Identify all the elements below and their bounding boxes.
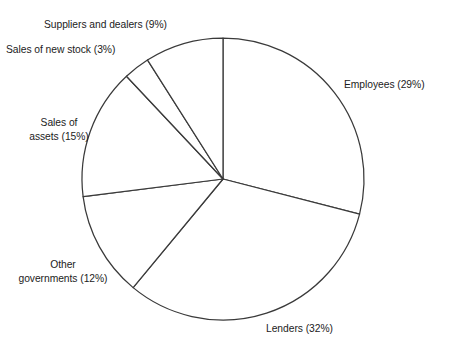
slice-label-lenders: Lenders (32%) <box>266 322 333 336</box>
slice-label-sales-of-new-stock: Sales of new stock (3%) <box>6 43 115 57</box>
slice-label-suppliers-and-dealers: Suppliers and dealers (9%) <box>44 18 167 32</box>
pie-slices-group <box>82 38 364 320</box>
pie-chart-figure: Suppliers and dealers (9%) Sales of new … <box>0 0 449 345</box>
slice-label-employees: Employees (29%) <box>344 78 425 92</box>
slice-label-sales-of-assets: Sales of assets (15%) <box>17 116 101 143</box>
slice-label-other-governments: Other governments (12%) <box>4 258 122 285</box>
